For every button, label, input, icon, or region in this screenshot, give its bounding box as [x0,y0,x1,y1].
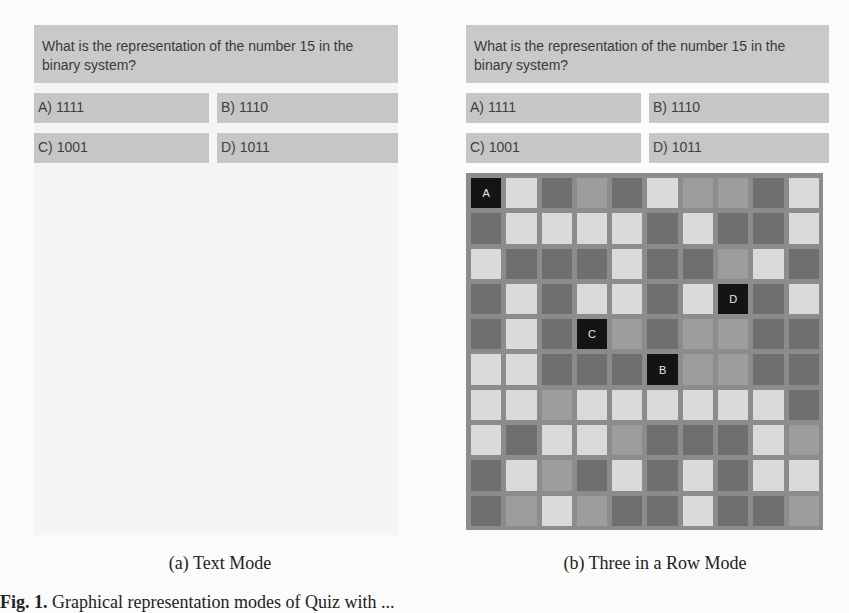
answer-b-button[interactable]: B) 1110 [649,93,829,123]
grid-cell[interactable] [612,284,642,314]
grid-cell[interactable] [612,425,642,455]
grid-cell[interactable] [789,249,819,279]
grid-cell[interactable] [542,284,572,314]
grid-cell[interactable] [577,284,607,314]
grid-cell[interactable] [683,319,713,349]
grid-cell[interactable] [753,390,783,420]
grid-cell[interactable] [506,249,536,279]
grid-cell[interactable] [471,354,501,384]
grid-cell[interactable] [683,354,713,384]
grid-cell[interactable] [471,460,501,490]
answer-a-button[interactable]: A) 1111 [466,93,641,123]
grid-cell[interactable] [612,213,642,243]
grid-cell[interactable] [753,496,783,526]
answer-a-button[interactable]: A) 1111 [34,93,209,123]
grid-cell[interactable] [577,496,607,526]
grid-cell[interactable] [612,319,642,349]
grid-cell[interactable] [753,249,783,279]
grid-cell[interactable] [612,178,642,208]
grid-cell[interactable] [789,425,819,455]
grid-cell[interactable] [683,178,713,208]
grid-cell[interactable] [577,354,607,384]
grid-cell[interactable] [471,425,501,455]
grid-cell[interactable] [471,390,501,420]
grid-cell[interactable] [506,354,536,384]
grid-cell[interactable] [647,284,677,314]
grid-cell[interactable] [506,460,536,490]
grid-cell-d[interactable]: D [718,284,748,314]
grid-cell[interactable] [753,319,783,349]
grid-cell[interactable] [471,319,501,349]
grid-cell[interactable] [506,319,536,349]
grid-cell[interactable] [647,319,677,349]
grid-cell[interactable] [789,319,819,349]
grid-cell[interactable] [612,354,642,384]
grid-cell[interactable] [683,249,713,279]
grid-cell[interactable] [753,213,783,243]
grid-cell[interactable] [789,496,819,526]
grid-cell[interactable] [647,425,677,455]
grid-cell[interactable] [753,284,783,314]
grid-cell[interactable] [542,425,572,455]
grid-cell[interactable] [753,178,783,208]
grid-cell[interactable] [683,284,713,314]
grid-cell[interactable] [718,460,748,490]
grid-cell[interactable] [577,390,607,420]
answer-d-button[interactable]: D) 1011 [217,133,398,163]
grid-cell[interactable] [471,496,501,526]
grid-cell[interactable] [753,460,783,490]
grid-cell[interactable] [647,390,677,420]
grid-cell[interactable] [542,249,572,279]
answer-c-button[interactable]: C) 1001 [34,133,209,163]
grid-cell[interactable] [718,319,748,349]
grid-cell[interactable] [471,249,501,279]
grid-cell[interactable] [718,249,748,279]
grid-cell[interactable] [718,213,748,243]
grid-cell[interactable] [577,249,607,279]
grid-cell[interactable] [789,460,819,490]
grid-cell[interactable] [789,354,819,384]
grid-cell[interactable] [506,425,536,455]
grid-cell[interactable] [647,496,677,526]
grid-cell[interactable] [789,390,819,420]
grid-cell[interactable] [683,460,713,490]
grid-cell-b[interactable]: B [647,354,677,384]
grid-cell[interactable] [542,178,572,208]
grid-cell[interactable] [718,425,748,455]
grid-cell[interactable] [753,425,783,455]
grid-cell[interactable] [577,425,607,455]
grid-cell[interactable] [718,354,748,384]
grid-cell[interactable] [683,425,713,455]
grid-cell[interactable] [647,178,677,208]
grid-cell[interactable] [542,460,572,490]
grid-cell[interactable] [542,213,572,243]
grid-cell[interactable] [506,496,536,526]
grid-cell[interactable] [506,390,536,420]
grid-cell-a[interactable]: A [471,178,501,208]
grid-cell[interactable] [718,178,748,208]
answer-d-button[interactable]: D) 1011 [649,133,829,163]
grid-cell[interactable] [683,390,713,420]
grid-cell[interactable] [471,213,501,243]
grid-cell[interactable] [718,496,748,526]
grid-cell[interactable] [647,460,677,490]
grid-cell[interactable] [612,496,642,526]
grid-cell[interactable] [718,390,748,420]
grid-cell[interactable] [647,249,677,279]
grid-cell[interactable] [683,496,713,526]
grid-cell[interactable] [542,319,572,349]
grid-cell[interactable] [577,178,607,208]
grid-cell[interactable] [647,213,677,243]
grid-cell-c[interactable]: C [577,319,607,349]
answer-c-button[interactable]: C) 1001 [466,133,641,163]
grid-cell[interactable] [753,354,783,384]
grid-cell[interactable] [577,213,607,243]
grid-cell[interactable] [789,284,819,314]
grid-cell[interactable] [612,460,642,490]
grid-cell[interactable] [542,390,572,420]
grid-cell[interactable] [506,284,536,314]
grid-cell[interactable] [542,354,572,384]
grid-cell[interactable] [506,178,536,208]
grid-cell[interactable] [471,284,501,314]
grid-cell[interactable] [683,213,713,243]
